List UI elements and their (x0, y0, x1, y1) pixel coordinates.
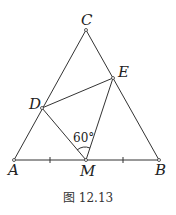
label-d: D (28, 95, 41, 113)
label-b: B (154, 161, 166, 179)
label-c: C (81, 11, 93, 29)
label-e: E (117, 63, 129, 81)
angle-arc-dme (77, 147, 90, 150)
geometry-diagram: C E D A M B 60° 图 12.13 (0, 0, 176, 215)
segment-de (42, 78, 113, 108)
segment-bc (86, 30, 159, 160)
point-e (112, 77, 115, 80)
angle-label: 60° (73, 131, 94, 145)
label-a: A (6, 161, 19, 179)
figure-caption: 图 12.13 (63, 191, 113, 205)
label-m: M (79, 162, 96, 180)
